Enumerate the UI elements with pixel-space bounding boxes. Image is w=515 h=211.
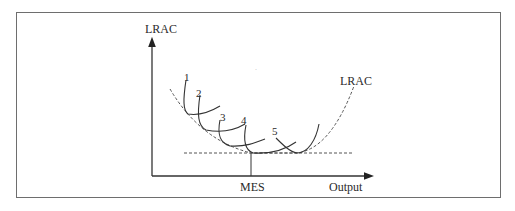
srac-label-4: 4 [241,115,247,126]
srac-label-2: 2 [196,88,202,99]
srac-curve-1 [184,80,220,115]
x-axis-label: Output [329,181,362,193]
srac-label-3: 3 [220,112,226,123]
srac-label-1: 1 [184,72,190,83]
lrac-curve-label: LRAC [340,75,372,87]
y-axis-label: LRAC [145,23,177,35]
mes-label: MES [240,181,265,193]
svg-text:·: · [255,67,257,73]
srac-label-5: 5 [272,126,278,137]
